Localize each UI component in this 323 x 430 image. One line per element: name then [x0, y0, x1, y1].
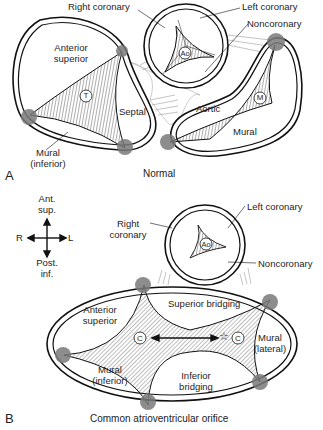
label-mural-inferior-b: Mural (inferior) [88, 364, 132, 386]
label-aortic: Aortic [196, 103, 220, 114]
diagram-canvas [0, 0, 323, 430]
label-left-coronary-b: Left coronary [247, 201, 302, 212]
panel-a-letter: A [5, 168, 14, 183]
orientation-top: Ant. sup. [30, 193, 64, 215]
label-superior-bridging: Superior bridging [168, 298, 240, 309]
label-inferior-bridging: Inferior bridging [174, 370, 218, 392]
panel-b-letter: B [5, 411, 14, 426]
orientation-left: R [16, 232, 23, 243]
aorta-marker-b: Ao [198, 239, 214, 250]
orientation-right: L [68, 232, 73, 243]
label-mural-lateral: Mural (lateral) [250, 332, 290, 354]
label-mural-inferior: Mural (inferior) [26, 147, 70, 169]
label-left-coronary: Left coronary [242, 1, 297, 12]
label-septal: Septal [119, 106, 146, 117]
orientation-cross [28, 219, 66, 257]
mitral-marker: M [254, 92, 266, 103]
panel-b-caption: Common atrioventricular orifice [90, 413, 228, 424]
tricuspid-marker: T [80, 90, 92, 101]
commissure-marker-right: C [232, 333, 244, 344]
label-right-coronary-b: Right coronary [104, 218, 152, 240]
label-right-coronary: Right coronary [68, 1, 130, 12]
star-icon: ☆ [219, 331, 229, 342]
label-mural: Mural [233, 126, 257, 137]
panel-a-caption: Normal [143, 168, 175, 179]
label-anterior-superior-b: Anterior superior [76, 304, 124, 326]
orientation-bottom: Post. inf. [30, 257, 64, 279]
label-noncoronary: Noncoronary [247, 18, 301, 29]
commissure-marker-left: C [134, 333, 146, 344]
aorta-marker-a: Ao [177, 48, 193, 59]
label-anterior-superior: Anterior superior [46, 42, 96, 64]
label-noncoronary-b: Noncoronary [258, 258, 312, 269]
